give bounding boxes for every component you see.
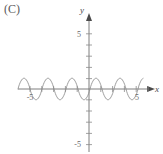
y-axis-label: y <box>79 5 84 15</box>
y-axis-arrowhead <box>86 13 92 21</box>
x-tick-label-right: 5 <box>135 93 139 102</box>
y-tick-label-top: 5 <box>77 30 81 39</box>
x-axis-label: x <box>154 84 159 94</box>
x-tick-label-left: -5 <box>27 93 34 102</box>
y-tick-label-bottom: -5 <box>74 140 81 149</box>
plot-figure: y x 5 -5 -5 5 <box>0 0 163 154</box>
